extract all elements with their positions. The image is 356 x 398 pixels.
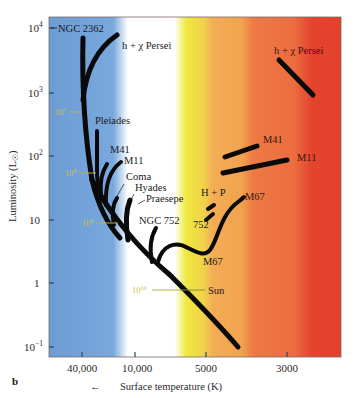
x-tick-5000: 5000	[195, 362, 218, 374]
sun-label: Sun	[208, 285, 225, 296]
y-axis: 104 103 102 10 1 10−1 Luminosity (L☉)	[7, 20, 54, 353]
x-tick-3000: 3000	[276, 362, 299, 374]
label-m41-right: M41	[263, 134, 283, 145]
label-coma: Coma	[126, 171, 151, 182]
label-ngc752: NGC 752	[139, 215, 180, 226]
label-ngc2362: NGC 2362	[58, 23, 104, 34]
y-tick-1e2: 102	[28, 148, 43, 162]
label-m67-bottom: M67	[203, 256, 223, 267]
label-hyades: Hyades	[135, 182, 167, 193]
y-tick-1e3: 103	[28, 85, 43, 99]
x-axis-arrow: ←	[90, 381, 101, 392]
label-hchi-persei-right: h + χ Persei	[274, 45, 323, 56]
label-hp: H + P	[201, 187, 226, 198]
label-m11-right: M11	[297, 152, 316, 163]
x-tick-40000: 40,000	[67, 362, 98, 374]
y-tick-1e4: 104	[28, 20, 43, 34]
label-m11-left: M11	[124, 155, 143, 166]
y-tick-1: 1	[34, 277, 40, 289]
x-axis: 40,000 10,000 5000 3000 ← Surface temper…	[12, 352, 299, 393]
label-m41-left: M41	[110, 144, 130, 155]
panel-label: b	[12, 375, 18, 387]
label-pleiades: Pleiades	[95, 115, 130, 126]
hr-diagram-chart: 104 103 102 10 1 10−1 Luminosity (L☉) 40…	[0, 0, 356, 398]
y-tick-10: 10	[29, 214, 41, 226]
y-tick-1e-1: 10−1	[24, 339, 43, 353]
x-axis-title: Surface temperature (K)	[120, 381, 223, 393]
label-m67-top: M67	[245, 191, 265, 202]
label-752-right: 752	[193, 219, 209, 230]
label-praesepe: Praesepe	[146, 193, 184, 204]
y-axis-title: Luminosity (L☉)	[7, 150, 20, 222]
label-hchi-persei-left: h + χ Persei	[122, 40, 171, 51]
x-tick-10000: 10,000	[122, 362, 153, 374]
